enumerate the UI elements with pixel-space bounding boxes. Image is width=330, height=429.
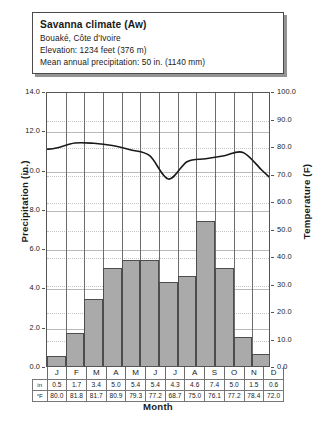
y-tick-mark-temperature bbox=[271, 92, 274, 93]
table-cell-precipitation: 5.0 bbox=[224, 380, 244, 391]
table-cell-temperature: 79.3 bbox=[126, 391, 146, 402]
table-month-header: J bbox=[165, 367, 185, 380]
table-cell-temperature: 68.7 bbox=[165, 391, 185, 402]
y-tick-label-temperature: 20.0 bbox=[277, 307, 317, 316]
y-tick-mark-precipitation bbox=[42, 92, 45, 93]
y-tick-label-temperature: 100.0 bbox=[277, 87, 317, 96]
y-tick-mark-temperature bbox=[271, 120, 274, 121]
y-tick-mark-precipitation bbox=[42, 171, 45, 172]
y-tick-mark-precipitation bbox=[42, 210, 45, 211]
climograph-plot-area bbox=[46, 92, 270, 367]
table-month-header: J bbox=[47, 367, 67, 380]
y-tick-label-precipitation: 4.0 bbox=[0, 283, 40, 292]
monthly-data-table: JFMAMJJASOND in0.51.73.45.05.45.44.34.67… bbox=[32, 367, 284, 402]
y-tick-label-temperature: 30.0 bbox=[277, 280, 317, 289]
y-tick-mark-temperature bbox=[271, 285, 274, 286]
temperature-curve-path bbox=[47, 143, 270, 179]
x-axis-label-month: Month bbox=[46, 401, 270, 412]
table-cell-precipitation: 3.4 bbox=[86, 380, 106, 391]
y-axis-label-temperature: Temperature (F) bbox=[301, 132, 312, 272]
table-cell-precipitation: 4.6 bbox=[185, 380, 205, 391]
y-tick-mark-temperature bbox=[271, 312, 274, 313]
table-cell-precipitation: 5.4 bbox=[146, 380, 166, 391]
elevation-line: Elevation: 1234 feet (376 m) bbox=[40, 44, 276, 56]
y-tick-mark-temperature bbox=[271, 175, 274, 176]
table-cell-precipitation: 7.4 bbox=[205, 380, 225, 391]
table-cell-precipitation: 5.0 bbox=[106, 380, 126, 391]
table-month-header: O bbox=[224, 367, 244, 380]
table-cell-precipitation: 5.4 bbox=[126, 380, 146, 391]
annual-precipitation-line: Mean annual precipitation: 50 in. (1140 … bbox=[40, 56, 276, 68]
y-tick-mark-temperature bbox=[271, 257, 274, 258]
table-cell-temperature: 75.0 bbox=[185, 391, 205, 402]
y-axis-label-precipitation: Precipitation (in.) bbox=[19, 132, 30, 272]
temperature-line bbox=[47, 93, 269, 366]
table-month-header: D bbox=[264, 367, 284, 380]
table-cell-temperature: 76.1 bbox=[205, 391, 225, 402]
table-month-header: S bbox=[205, 367, 225, 380]
y-tick-label-temperature: 10.0 bbox=[277, 335, 317, 344]
table-row-temperature: °F80.081.881.780.979.377.268.775.076.177… bbox=[33, 391, 284, 402]
table-cell-temperature: 80.0 bbox=[47, 391, 67, 402]
climate-info-box: Savanna climate (Aw) Bouaké, Côte d'Ivoi… bbox=[32, 12, 284, 74]
table-month-header: M bbox=[86, 367, 106, 380]
table-cell-precipitation: 4.3 bbox=[165, 380, 185, 391]
y-tick-mark-temperature bbox=[271, 230, 274, 231]
y-tick-mark-precipitation bbox=[42, 249, 45, 250]
table-month-header: N bbox=[244, 367, 264, 380]
table-month-header: F bbox=[67, 367, 87, 380]
table-row-months: JFMAMJJASOND bbox=[33, 367, 284, 380]
y-tick-mark-precipitation bbox=[42, 131, 45, 132]
y-tick-mark-precipitation bbox=[42, 328, 45, 329]
table-row-precipitation: in0.51.73.45.05.45.44.34.67.45.01.50.6 bbox=[33, 380, 284, 391]
table-cell-temperature: 77.2 bbox=[224, 391, 244, 402]
table-month-header: A bbox=[106, 367, 126, 380]
table-cell-temperature: 77.2 bbox=[146, 391, 166, 402]
y-tick-mark-precipitation bbox=[42, 288, 45, 289]
table-month-header: J bbox=[146, 367, 166, 380]
climate-type-title: Savanna climate (Aw) bbox=[40, 17, 276, 32]
y-tick-mark-temperature bbox=[271, 202, 274, 203]
table-cell-temperature: 78.4 bbox=[244, 391, 264, 402]
table-cell-precipitation: 1.7 bbox=[67, 380, 87, 391]
table-rowlabel-precipitation: in bbox=[33, 380, 48, 391]
table-cell-precipitation: 0.6 bbox=[264, 380, 284, 391]
y-tick-label-precipitation: 14.0 bbox=[0, 87, 40, 96]
table-cell-temperature: 81.8 bbox=[67, 391, 87, 402]
y-tick-mark-temperature bbox=[271, 340, 274, 341]
table-cell-temperature: 72.0 bbox=[264, 391, 284, 402]
y-tick-label-precipitation: 2.0 bbox=[0, 323, 40, 332]
table-cell-temperature: 81.7 bbox=[86, 391, 106, 402]
table-cell-precipitation: 1.5 bbox=[244, 380, 264, 391]
table-cell-precipitation: 0.5 bbox=[47, 380, 67, 391]
table-month-header: M bbox=[126, 367, 146, 380]
table-corner-cell bbox=[33, 367, 48, 380]
location-line: Bouaké, Côte d'Ivoire bbox=[40, 32, 276, 44]
table-cell-temperature: 80.9 bbox=[106, 391, 126, 402]
table-month-header: A bbox=[185, 367, 205, 380]
table-rowlabel-temperature: °F bbox=[33, 391, 48, 402]
y-tick-label-temperature: 90.0 bbox=[277, 115, 317, 124]
y-tick-mark-temperature bbox=[271, 147, 274, 148]
